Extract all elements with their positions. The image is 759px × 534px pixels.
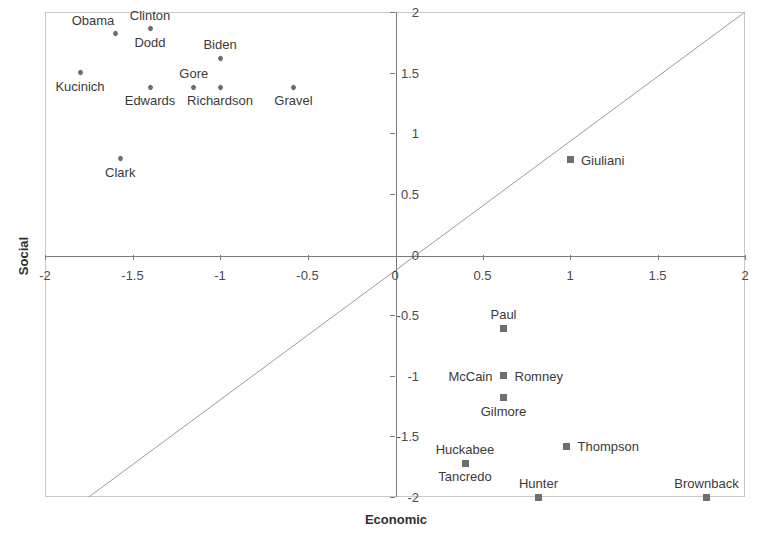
data-point-label: Dodd	[134, 36, 165, 49]
y-axis-tick-label: 1.5	[383, 66, 419, 79]
x-axis-tick	[570, 255, 571, 260]
x-axis-title: Economic	[365, 512, 427, 527]
data-point-label: Biden	[203, 38, 236, 51]
data-point-label: Huckabee	[436, 443, 495, 456]
x-axis-tick	[220, 255, 221, 260]
data-point-label: Obama	[72, 14, 115, 27]
x-axis-tick	[745, 255, 746, 260]
data-point-label: Clinton	[130, 9, 170, 22]
data-point-marker	[567, 156, 574, 163]
data-point-label: Giuliani	[581, 153, 624, 166]
data-point-marker	[703, 494, 710, 501]
data-point-marker	[535, 494, 542, 501]
data-point-label: Tancredo	[438, 470, 491, 483]
data-point-label: Hunter	[519, 477, 558, 490]
x-axis-tick	[658, 255, 659, 260]
x-axis-tick-label: -0.5	[296, 269, 318, 282]
data-point-label: Thompson	[578, 440, 639, 453]
x-axis-tick-label: -2	[39, 269, 51, 282]
x-axis-tick-label: -1	[214, 269, 226, 282]
data-point-label: Paul	[490, 308, 516, 321]
x-axis-tick	[308, 255, 309, 260]
y-axis-tick-label: -1	[383, 369, 419, 382]
data-point-label: Brownback	[674, 477, 738, 490]
scatter-chart: -2-1.5-1-0.500.511.52-2-1.5-1-0.500.511.…	[0, 0, 759, 534]
data-point-label: Kucinich	[55, 80, 104, 93]
data-point-marker	[563, 443, 570, 450]
x-axis-tick	[133, 255, 134, 260]
x-axis-tick-label: 0.5	[473, 269, 491, 282]
data-point-label: Gore	[179, 67, 208, 80]
y-axis-title: Social	[16, 237, 31, 275]
x-axis-tick-label: 1.5	[648, 269, 666, 282]
data-point-marker	[462, 460, 469, 467]
data-point-label: Gravel	[274, 94, 312, 107]
y-axis-tick-label: -0.5	[383, 309, 419, 322]
y-axis-tick-label: 0.5	[383, 187, 419, 200]
x-axis-tick-label: 0	[391, 269, 398, 282]
x-axis-tick-label: -1.5	[121, 269, 143, 282]
x-axis-tick	[483, 255, 484, 260]
data-point-label: Edwards	[125, 94, 176, 107]
data-point-label: Romney	[515, 369, 563, 382]
data-point-label: McCain	[448, 369, 492, 382]
data-point-marker	[500, 372, 507, 379]
data-point-marker	[500, 325, 507, 332]
data-point-label: Clark	[105, 166, 135, 179]
y-axis-tick-label: 0	[383, 248, 419, 261]
x-axis-tick-label: 2	[741, 269, 748, 282]
y-axis-tick-label: 2	[383, 6, 419, 19]
data-point-marker	[500, 394, 507, 401]
x-axis-tick-label: 1	[566, 269, 573, 282]
data-point-label: Richardson	[187, 94, 253, 107]
x-axis-tick	[45, 255, 46, 260]
y-axis-tick-label: -2	[383, 491, 419, 504]
y-axis-tick-label: -1.5	[383, 430, 419, 443]
y-axis-tick-label: 1	[383, 127, 419, 140]
data-point-label: Gilmore	[481, 405, 527, 418]
